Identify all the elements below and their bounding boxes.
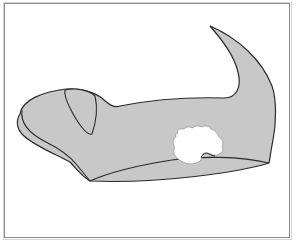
illustration xyxy=(0,0,297,246)
